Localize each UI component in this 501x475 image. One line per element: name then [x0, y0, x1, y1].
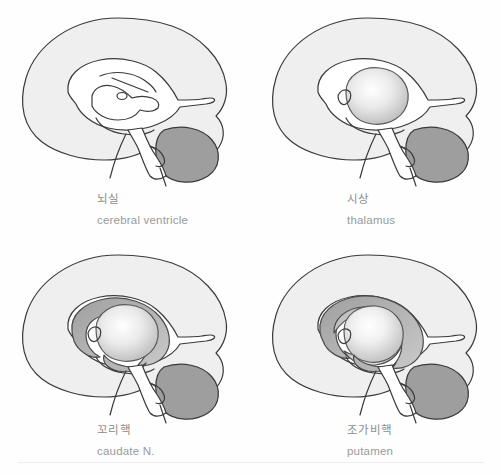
- brain-figure-putamen: [250, 237, 501, 427]
- thalamus: [346, 68, 408, 125]
- label-korean: 시상: [347, 192, 501, 206]
- label-korean: 뇌실: [97, 192, 250, 206]
- foramen-dot: [117, 93, 127, 100]
- label-english: caudate N.: [97, 444, 250, 458]
- labels-putamen: 조가비핵 putamen: [250, 423, 501, 458]
- diagram-sheet: 뇌실 cerebral ventricle: [0, 0, 501, 475]
- label-english: cerebral ventricle: [97, 213, 250, 227]
- thalamus: [96, 305, 158, 362]
- panel-cerebral-ventricle: 뇌실 cerebral ventricle: [0, 0, 250, 245]
- labels-thalamus: 시상 thalamus: [250, 192, 501, 227]
- footer-divider: [18, 462, 484, 463]
- labels-caudate-nucleus: 꼬리핵 caudate N.: [0, 423, 250, 458]
- labels-cerebral-ventricle: 뇌실 cerebral ventricle: [0, 192, 250, 227]
- panel-caudate-nucleus: 꼬리핵 caudate N.: [0, 245, 250, 475]
- panel-thalamus: 시상 thalamus: [250, 0, 501, 245]
- label-korean: 꼬리핵: [97, 423, 250, 437]
- thalamus: [344, 306, 403, 362]
- panel-putamen: 조가비핵 putamen: [250, 245, 501, 475]
- brain-figure-cerebral-ventricle: [0, 0, 250, 190]
- label-korean: 조가비핵: [347, 423, 501, 437]
- brain-figure-caudate-nucleus: [0, 237, 250, 427]
- brain-figure-thalamus: [250, 0, 501, 190]
- panel-grid: 뇌실 cerebral ventricle: [0, 0, 501, 475]
- label-english: putamen: [347, 444, 501, 458]
- label-english: thalamus: [347, 213, 501, 227]
